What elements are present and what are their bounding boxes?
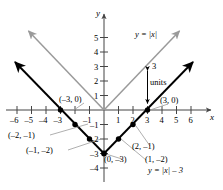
xtick-label-5: 5 (174, 116, 178, 125)
ytick-label-neg3: –3 (90, 150, 99, 159)
point-label-2-m1: (2, –1) (132, 142, 155, 151)
point-label-m1-m2: (–1, –2) (26, 146, 53, 155)
xtick-label-1: 1 (116, 116, 120, 125)
point-label-0-m3: (0, –3) (104, 155, 127, 164)
xtick-label-neg3: –3 (54, 116, 63, 125)
ytick-label-neg1: –1 (90, 121, 99, 130)
point-1-m2 (116, 136, 121, 141)
xtick-label-4: 4 (160, 116, 164, 125)
label-leader-lines (50, 103, 168, 160)
shift-amount-label: 3 (152, 62, 156, 71)
xtick-label-3: 3 (145, 116, 149, 125)
ytick-label-neg2: –2 (90, 135, 99, 144)
absolute-value-graph-figure: x y –6 –5 –4 –3 –1 1 2 3 4 5 6 1 2 3 4 5… (0, 0, 223, 190)
point-label-3-0: (3, 0) (160, 96, 178, 105)
ytick-label-neg4: –4 (90, 164, 99, 173)
point-label-m2-m1: (–2, –1) (8, 131, 35, 140)
xtick-label-6: 6 (189, 116, 193, 125)
point-m2-m1 (72, 122, 77, 127)
point-3-0 (145, 107, 150, 112)
x-axis-label: x (210, 113, 214, 122)
xtick-label-2: 2 (131, 116, 135, 125)
point-label-m3-0: (–3, 0) (59, 95, 82, 104)
ytick-label-2: 2 (94, 77, 98, 86)
curve-label-shifted: y = |x| – 3 (148, 166, 183, 175)
point-label-1-m2: (1, –2) (145, 155, 168, 164)
y-axis-label: y (96, 9, 100, 18)
ytick-label-1: 1 (94, 92, 98, 101)
xtick-label-neg4: –4 (39, 116, 48, 125)
ytick-label-4: 4 (94, 48, 98, 57)
xtick-label-neg6: –6 (10, 116, 19, 125)
point-m3-0 (58, 107, 63, 112)
xtick-label-neg5: –5 (25, 116, 34, 125)
ytick-label-3: 3 (94, 63, 98, 72)
curve-label-parent: y = |x| (135, 30, 157, 39)
shift-units-label: units (150, 78, 167, 87)
ytick-label-5: 5 (94, 34, 98, 43)
